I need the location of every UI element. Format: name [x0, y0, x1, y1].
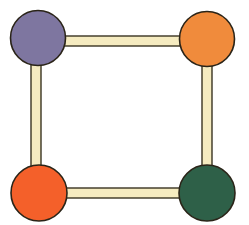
top-left-node [11, 11, 66, 66]
square-graph-diagram [0, 0, 249, 225]
top-right-node [180, 12, 235, 67]
bottom-right-node [179, 165, 235, 221]
diagram-canvas [0, 0, 249, 225]
bottom-left-node [11, 165, 67, 221]
